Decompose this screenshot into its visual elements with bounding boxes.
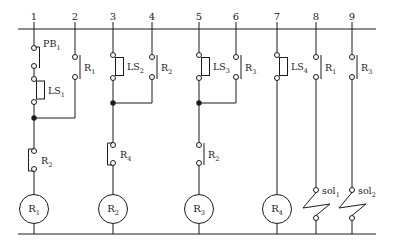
contact-terminal: [73, 75, 78, 80]
limit-switch-ls3-label: LS3: [213, 61, 230, 75]
relay-coil-r1-label: R1: [28, 203, 40, 217]
contact-terminal: [350, 75, 355, 80]
relay-ladder-diagram: 1 2 3 4 5 6 7 8 9 PB1 LS1: [0, 0, 394, 251]
rung-8: R1 sol1: [303, 29, 340, 234]
contact-terminal: [32, 64, 37, 69]
rung-number-2: 2: [72, 11, 78, 22]
rung-number-3: 3: [110, 11, 116, 22]
limit-switch-ls4-label: LS4: [291, 61, 308, 75]
contact-terminal: [197, 53, 202, 58]
rung-number-7: 7: [274, 11, 280, 22]
pushbutton-label: PB1: [43, 38, 61, 52]
output-contact-r1-label: R1: [325, 62, 336, 76]
rung-numbers: 1 2 3 4 5 6 7 8 9: [31, 11, 355, 29]
solenoid-sol1-label: sol1: [322, 185, 340, 199]
rung-5: LS3 R2 R3: [185, 29, 237, 234]
limit-switch-box-icon: [202, 58, 210, 76]
relay-coil-r3-label: R3: [193, 203, 205, 217]
contact-terminal: [234, 55, 239, 60]
contact-terminal: [234, 75, 239, 80]
contact-terminal: [73, 55, 78, 60]
limit-switch-ls1-label: LS1: [48, 85, 65, 99]
series-contact-r4-label: R4: [120, 149, 131, 163]
series-contact-r2-label: R2: [41, 155, 52, 169]
rung-number-6: 6: [233, 11, 239, 22]
contact-terminal: [32, 100, 37, 105]
rung-7: LS4 R4: [263, 29, 308, 234]
contact-terminal: [32, 77, 37, 82]
rung-number-8: 8: [313, 11, 319, 22]
contact-terminal: [197, 161, 202, 166]
contact-terminal: [32, 46, 37, 51]
relay-coil-r2-label: R2: [107, 203, 119, 217]
rung-4: R2: [150, 29, 173, 103]
contact-terminal: [350, 55, 355, 60]
solenoid-terminal: [350, 188, 355, 193]
contact-terminal: [150, 55, 155, 60]
rung-number-1: 1: [31, 11, 37, 22]
rung-1: PB1 LS1 R2 R1: [20, 29, 65, 234]
rung-9: R3 sol2: [339, 29, 376, 234]
relay-coil-r4-label: R4: [271, 203, 283, 217]
contact-terminal: [314, 55, 319, 60]
series-contact-r2b-label: R2: [208, 149, 219, 163]
solenoid-sol2-label: sol2: [358, 185, 376, 199]
limit-switch-ls2-label: LS2: [127, 61, 144, 75]
seal-contact-r3-label: R3: [245, 62, 256, 76]
seal-contact-r2-label: R2: [161, 62, 172, 76]
solenoid-terminal: [350, 216, 355, 221]
solenoid-terminal: [314, 188, 319, 193]
solenoid-terminal: [314, 216, 319, 221]
contact-terminal: [197, 143, 202, 148]
contact-terminal: [197, 76, 202, 81]
limit-switch-box-icon: [116, 58, 124, 76]
rung-number-4: 4: [149, 11, 155, 22]
limit-switch-box-icon: [280, 58, 288, 76]
rung-6: R3: [234, 29, 257, 103]
output-contact-r3-label: R3: [361, 62, 372, 76]
contact-terminal: [111, 53, 116, 58]
rung-number-9: 9: [349, 11, 355, 22]
rung-number-5: 5: [196, 11, 202, 22]
contact-terminal: [111, 76, 116, 81]
seal-contact-r1-label: R1: [84, 62, 95, 76]
contact-terminal: [275, 53, 280, 58]
rung-3: LS2 R4 R2: [99, 29, 153, 234]
contact-terminal: [275, 76, 280, 81]
contact-terminal: [314, 75, 319, 80]
ladder-diagram-figure: 1 2 3 4 5 6 7 8 9 PB1 LS1: [0, 0, 394, 251]
limit-switch-box-icon: [37, 81, 45, 99]
contact-terminal: [150, 75, 155, 80]
